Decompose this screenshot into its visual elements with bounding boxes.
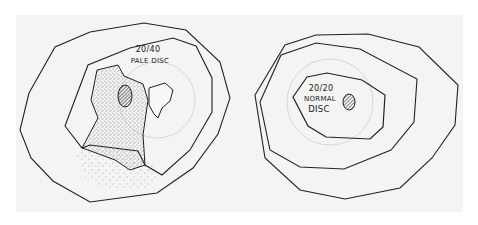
outer-isopter — [255, 34, 458, 199]
left-acuity-label: 20/40 — [128, 45, 168, 54]
left-disc-label: PALE DISC — [126, 57, 174, 66]
visual-field-diagrams — [0, 0, 478, 225]
blind-spot — [118, 85, 132, 107]
island-region — [149, 83, 173, 118]
left-visual-field — [20, 23, 230, 202]
right-disc-label-line2: DISC — [299, 105, 339, 114]
blind-spot — [343, 94, 355, 110]
right-visual-field — [255, 34, 458, 199]
right-disc-label-line1: NORMAL — [297, 95, 343, 104]
right-acuity-label: 20/20 — [301, 84, 341, 93]
